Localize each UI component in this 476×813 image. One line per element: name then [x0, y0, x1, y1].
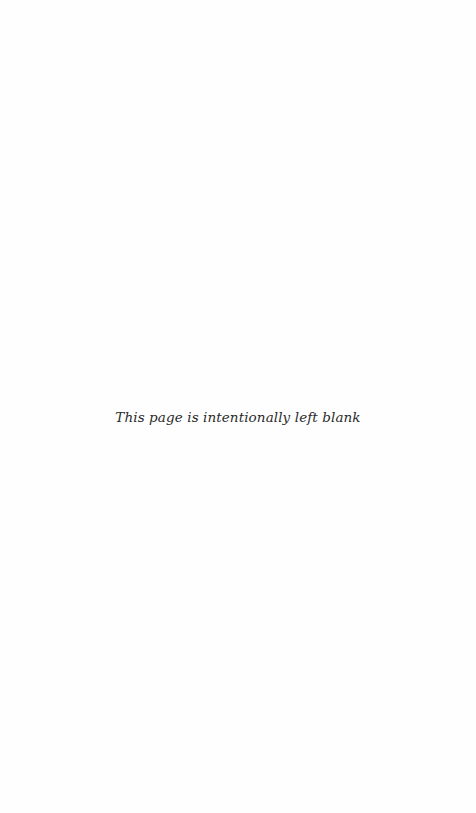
document-page: This page is intentionally left blank [0, 0, 476, 813]
blank-page-notice: This page is intentionally left blank [0, 408, 476, 426]
